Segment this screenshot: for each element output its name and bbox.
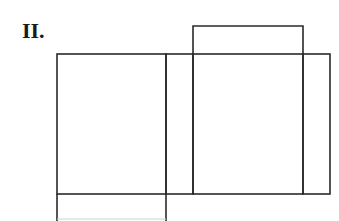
top-flap (193, 26, 303, 54)
box-net-diagram (0, 0, 339, 221)
front-face (57, 54, 166, 194)
narrow-side-face-left (166, 54, 193, 194)
narrow-side-face-right (303, 54, 330, 194)
back-face (193, 54, 303, 194)
